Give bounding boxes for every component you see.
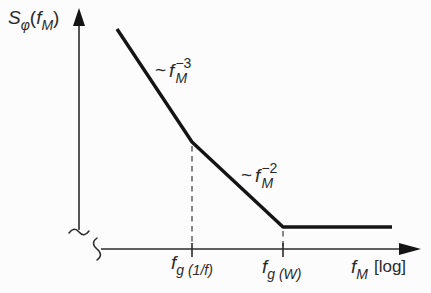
xlabel-subscript: M [356, 266, 368, 282]
y-axis-label: Sφ(fM) [8, 7, 59, 29]
x-axis-arrowhead-icon [399, 243, 421, 255]
y-label-f-subscript: M [41, 17, 53, 33]
x-axis-break-icon [94, 238, 101, 260]
tilde-symbol: ~ [155, 59, 166, 81]
slope2-f: f [255, 165, 260, 187]
slope3-exponent: −3 [175, 56, 191, 71]
slope2-exponent: −2 [261, 161, 277, 176]
x-axis-label: fM[log] [351, 256, 406, 278]
slope3-scripts: −3 M [175, 56, 191, 85]
y-label-close-paren: ) [53, 7, 59, 28]
y-label-S: S [8, 7, 21, 28]
xlabel-unit: [log] [374, 257, 406, 276]
slope2-scripts: −2 M [261, 161, 277, 190]
slope3-subscript: M [175, 71, 191, 86]
slope-label-minus2: ~ f −2 M [241, 161, 277, 190]
plot-canvas [0, 0, 431, 293]
y-axis-arrowhead-icon [73, 8, 85, 26]
slope2-subscript: M [261, 176, 277, 191]
slope3-f: f [169, 60, 174, 82]
tick-label-fg1f: fg (1/f) [171, 252, 213, 274]
fg1f-subscript: g (1/f) [176, 262, 213, 278]
y-label-phi-subscript: φ [21, 17, 30, 33]
y-axis-break-icon [69, 229, 89, 235]
fgw-subscript: g (W) [267, 266, 301, 282]
slope-label-minus3: ~ f −3 M [155, 56, 191, 85]
tick-label-fgw: fg (W) [262, 256, 302, 278]
figure-phase-noise-spectrum: Sφ(fM) ~ f −3 M ~ f −2 M fg (1/f) fg (W)… [0, 0, 431, 293]
tilde-symbol: ~ [241, 164, 252, 186]
